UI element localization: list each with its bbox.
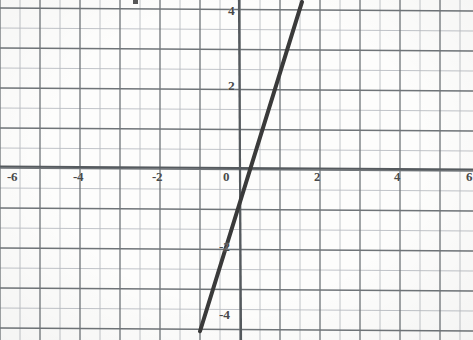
- x-tick-label--4: -4: [73, 170, 83, 183]
- x-tick-label--6: -6: [7, 170, 17, 183]
- x-tick-label-0: 0: [223, 170, 229, 183]
- x-tick-label-6: 6: [466, 170, 472, 183]
- x-tick-label-4: 4: [394, 170, 400, 183]
- y-tick-label--2: -2: [219, 240, 230, 254]
- y-tick-label-4: 4: [228, 4, 234, 18]
- cropped-glyph-mark: [133, 0, 138, 4]
- y-tick-label-2: 2: [228, 79, 234, 93]
- tick-labels-layer: -6 -4 -2 0 2 4 6 4 2 -2 -4: [0, 0, 473, 340]
- x-tick-label-2: 2: [314, 170, 320, 183]
- graph-figure: -6 -4 -2 0 2 4 6 4 2 -2 -4: [0, 0, 473, 340]
- x-tick-label--2: -2: [152, 170, 162, 183]
- y-tick-label--4: -4: [219, 308, 230, 322]
